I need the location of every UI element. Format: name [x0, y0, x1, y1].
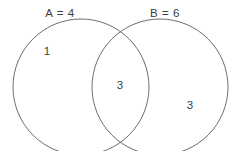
venn-diagram: A = 4 B = 6 1 3 3 — [0, 0, 241, 151]
set-a-label: A = 4 — [45, 7, 75, 19]
set-b-circle — [92, 19, 228, 151]
region-value-right-only: 3 — [187, 99, 193, 111]
set-b-label: B = 6 — [150, 7, 180, 19]
region-value-left-only: 1 — [44, 45, 50, 57]
region-value-intersection: 3 — [117, 79, 123, 91]
venn-diagram-canvas: A = 4 B = 6 1 3 3 — [0, 0, 241, 151]
set-a-circle — [13, 19, 149, 151]
